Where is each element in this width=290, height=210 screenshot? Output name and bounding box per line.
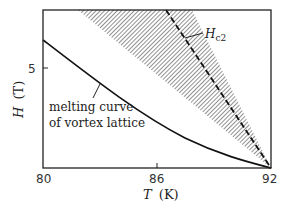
melting-label-line2: of vortex lattice — [49, 116, 145, 130]
x-tick-label-86: 86 — [149, 172, 164, 186]
melting-label-line1: melting curve — [49, 100, 133, 114]
y-tick-label-5: 5 — [28, 62, 36, 76]
hc2-label: Hc2 — [204, 27, 226, 43]
x-tick-label-92: 92 — [262, 172, 277, 186]
x-axis-title: T (K) — [143, 187, 179, 202]
x-tick-label-80: 80 — [36, 172, 51, 186]
phase-diagram-chart: 5 80 86 92 T (K) H (T) Hc2 melting curve… — [0, 0, 290, 210]
melting-leader-line — [93, 84, 100, 98]
y-axis-title: H (T) — [11, 81, 26, 119]
